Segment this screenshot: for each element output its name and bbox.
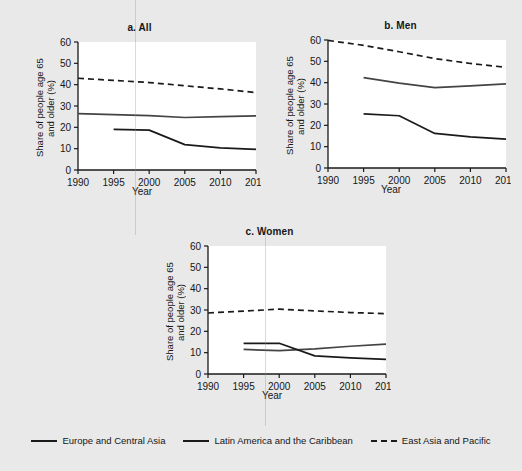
legend-swatch-dashed-icon <box>371 440 397 442</box>
panel-b-men: b. Men Share of people age 65 and older … <box>279 20 522 220</box>
panel-c-x-axis-label: Year <box>172 390 372 401</box>
svg-text:60: 60 <box>310 35 322 46</box>
svg-text:0: 0 <box>195 369 201 380</box>
panel-a-plot: 0102030405060199019952000200520102015 <box>18 22 261 212</box>
svg-text:40: 40 <box>190 283 202 294</box>
svg-text:50: 50 <box>190 262 202 273</box>
svg-text:60: 60 <box>190 241 202 252</box>
svg-text:40: 40 <box>310 77 322 88</box>
svg-text:0: 0 <box>315 163 321 174</box>
svg-text:50: 50 <box>310 56 322 67</box>
legend-label-latin-america-and-the-caribbean: Latin America and the Caribbean <box>214 435 352 447</box>
legend-label-east-asia-and-pacific: East Asia and Pacific <box>402 435 491 447</box>
svg-text:2015: 2015 <box>375 381 391 392</box>
svg-text:0: 0 <box>65 165 71 176</box>
svg-text:2015: 2015 <box>245 177 261 188</box>
legend-swatch-solid-icon <box>183 440 209 442</box>
svg-text:10: 10 <box>190 347 202 358</box>
legend-entry-latin-america-and-the-caribbean: Latin America and the Caribbean <box>183 435 352 447</box>
svg-text:50: 50 <box>60 58 72 69</box>
svg-text:10: 10 <box>310 141 322 152</box>
legend-entry-east-asia-and-pacific: East Asia and Pacific <box>371 435 491 447</box>
legend-swatch-solid-icon <box>31 440 57 442</box>
panel-b-x-axis-label: Year <box>291 184 491 195</box>
figure-legend: Europe and Central Asia Latin America an… <box>0 432 522 450</box>
svg-text:30: 30 <box>190 305 202 316</box>
svg-text:20: 20 <box>190 326 202 337</box>
svg-text:20: 20 <box>310 120 322 131</box>
legend-entry-europe-and-central-asia: Europe and Central Asia <box>31 435 165 447</box>
svg-text:30: 30 <box>60 101 72 112</box>
panel-a-x-axis-label: Year <box>42 186 242 197</box>
svg-text:20: 20 <box>60 122 72 133</box>
svg-text:2015: 2015 <box>495 175 511 186</box>
panel-b-plot: 0102030405060199019952000200520102015 <box>268 20 511 210</box>
panel-c-plot: 0102030405060199019952000200520102015 <box>148 226 391 416</box>
svg-text:60: 60 <box>60 37 72 48</box>
svg-text:30: 30 <box>310 99 322 110</box>
figure-canvas: a. All Share of people age 65 and older … <box>0 0 522 471</box>
panel-a-all: a. All Share of people age 65 and older … <box>18 22 261 222</box>
svg-text:40: 40 <box>60 79 72 90</box>
legend-label-europe-and-central-asia: Europe and Central Asia <box>62 435 165 447</box>
panel-c-women: c. Women Share of people age 65 and olde… <box>148 226 391 426</box>
svg-text:10: 10 <box>60 143 72 154</box>
